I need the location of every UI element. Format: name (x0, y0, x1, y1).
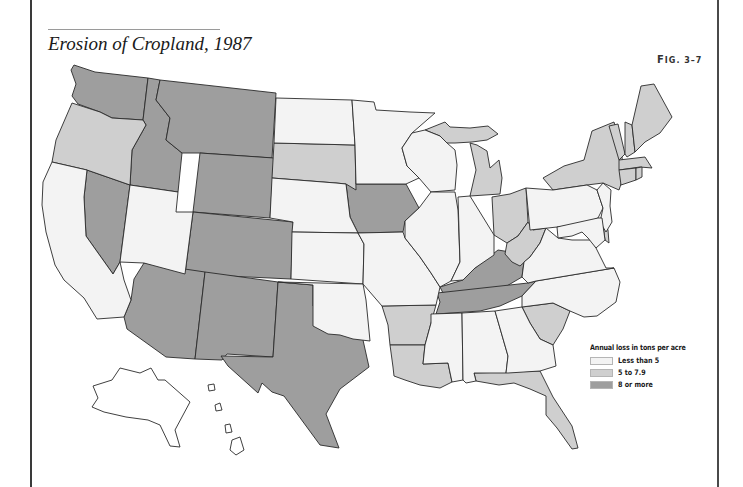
legend-swatch-high (590, 381, 613, 389)
state-hi-2 (225, 424, 232, 433)
state-mi-lower (470, 143, 502, 196)
state-me (632, 84, 672, 152)
legend-swatch-mid (590, 369, 613, 377)
state-co (185, 212, 293, 279)
state-ct (619, 168, 636, 185)
state-ri (636, 167, 642, 180)
state-fl (474, 371, 578, 449)
state-ut (120, 185, 193, 274)
state-wy (193, 153, 274, 218)
state-nd (274, 98, 355, 145)
state-mt (156, 80, 276, 158)
state-hi-3 (215, 403, 222, 411)
state-hi-4 (208, 384, 215, 391)
state-ak (92, 368, 190, 447)
state-ks (291, 232, 364, 284)
legend-swatch-low (590, 357, 613, 365)
state-nm (195, 272, 278, 360)
us-map (0, 0, 743, 487)
legend: Annual loss in tons per acre Less than 5… (590, 343, 702, 391)
state-hi (230, 437, 244, 455)
legend-item-high: 8 or more (590, 379, 702, 390)
state-az (124, 263, 205, 359)
legend-item-mid: 5 to 7.9 (590, 367, 702, 378)
legend-label-mid: 5 to 7.9 (618, 368, 646, 377)
legend-label-low: Less than 5 (618, 356, 659, 365)
legend-label-high: 8 or more (618, 380, 653, 389)
legend-title: Annual loss in tons per acre (590, 343, 686, 352)
legend-item-low: Less than 5 (590, 355, 702, 366)
